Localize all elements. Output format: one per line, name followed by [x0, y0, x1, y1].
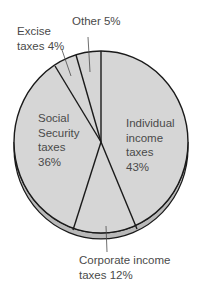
label-social-line1: Social: [38, 111, 80, 126]
label-social-line3: taxes: [38, 140, 80, 155]
label-individual-line3: taxes: [126, 145, 175, 160]
label-social-line4: 36%: [38, 155, 80, 170]
label-individual-line2: income: [126, 131, 175, 146]
label-other: Other 5%: [72, 14, 121, 29]
label-social-line2: Security: [38, 126, 80, 141]
label-individual-line1: Individual: [126, 116, 175, 131]
label-excise-line2: taxes 4%: [17, 39, 64, 54]
label-corporate-line1: Corporate income: [79, 253, 170, 268]
label-individual-line4: 43%: [126, 160, 175, 175]
label-other-text: Other 5%: [72, 15, 121, 27]
label-excise: Excise taxes 4%: [17, 24, 64, 53]
label-corporate-line2: taxes 12%: [79, 268, 170, 283]
label-individual: Individual income taxes 43%: [126, 116, 175, 174]
label-corporate: Corporate income taxes 12%: [79, 253, 170, 282]
label-social-security: Social Security taxes 36%: [38, 111, 80, 169]
label-excise-line1: Excise: [17, 24, 64, 39]
